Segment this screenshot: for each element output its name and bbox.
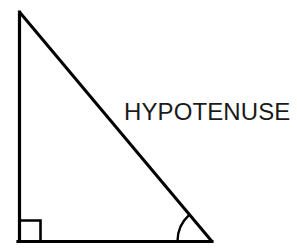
- hypotenuse-line: [20, 12, 213, 242]
- right-angle-square-icon: [19, 221, 41, 242]
- hypotenuse-label: HYPOTENUSE: [124, 99, 290, 125]
- right-triangle-figure: HYPOTENUSE: [0, 0, 297, 248]
- angle-arc-icon: [178, 215, 190, 241]
